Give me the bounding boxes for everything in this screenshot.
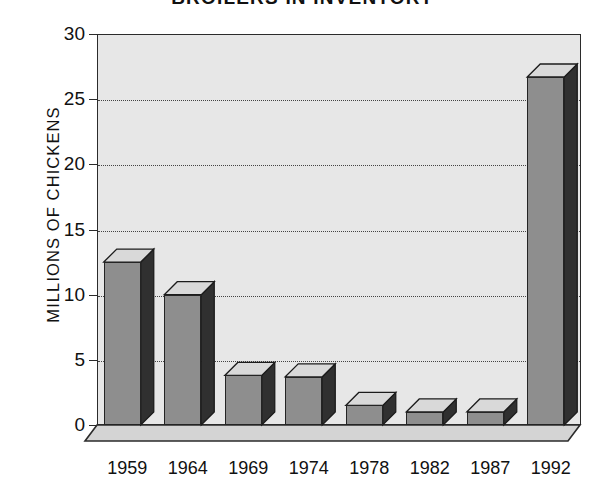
bar-front-face bbox=[225, 375, 262, 425]
bar-front-face bbox=[164, 295, 201, 425]
bar-front-face bbox=[346, 405, 383, 425]
y-tick-label: 15 bbox=[39, 220, 85, 239]
bar-front-face bbox=[467, 412, 504, 425]
x-tick-label: 1992 bbox=[516, 459, 586, 477]
y-tick-label: 5 bbox=[39, 350, 85, 369]
x-tick-label: 1987 bbox=[455, 459, 525, 477]
y-tick-mark bbox=[89, 360, 97, 361]
gridline bbox=[98, 100, 580, 101]
y-tick-label: 0 bbox=[39, 415, 85, 434]
gridline bbox=[98, 165, 580, 166]
y-axis-title: MILLIONS OF CHICKENS bbox=[44, 65, 63, 365]
x-tick-label: 1974 bbox=[274, 459, 344, 477]
x-tick-label: 1978 bbox=[334, 459, 404, 477]
gridline bbox=[98, 231, 580, 232]
y-tick-label: 30 bbox=[39, 24, 85, 43]
y-tick-mark bbox=[89, 164, 97, 165]
y-tick-mark bbox=[89, 425, 97, 426]
x-tick-label: 1959 bbox=[92, 459, 162, 477]
y-tick-mark bbox=[89, 295, 97, 296]
bar-front-face bbox=[527, 77, 564, 425]
bar-front-face bbox=[406, 412, 443, 425]
y-tick-mark bbox=[89, 230, 97, 231]
x-tick-label: 1964 bbox=[153, 459, 223, 477]
y-tick-label: 10 bbox=[39, 285, 85, 304]
floor-polygon bbox=[85, 425, 580, 441]
y-tick-label: 25 bbox=[39, 89, 85, 108]
chart-title: BROILERS IN INVENTORY bbox=[0, 0, 605, 4]
x-tick-label: 1969 bbox=[213, 459, 283, 477]
bar-front-face bbox=[104, 262, 141, 425]
x-tick-label: 1982 bbox=[395, 459, 465, 477]
chart-figure: BROILERS IN INVENTORY MILLIONS OF CHICKE… bbox=[0, 0, 605, 499]
y-tick-label: 20 bbox=[39, 154, 85, 173]
bar-front-face bbox=[285, 377, 322, 425]
y-tick-mark bbox=[89, 34, 97, 35]
y-tick-mark bbox=[89, 99, 97, 100]
